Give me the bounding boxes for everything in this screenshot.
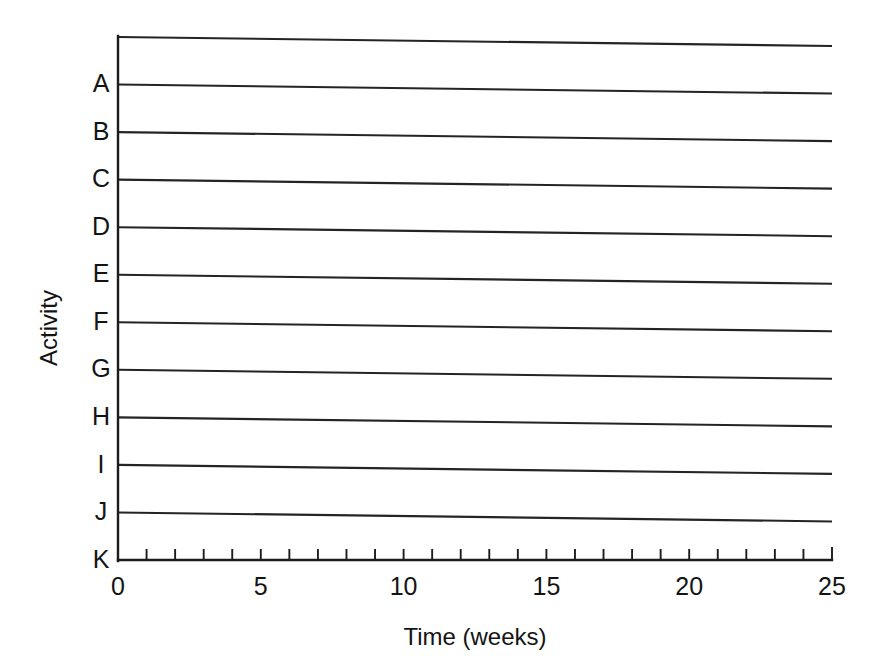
grid-line-G bbox=[118, 370, 832, 379]
category-label-J: J bbox=[95, 497, 108, 525]
x-tick-label-0: 0 bbox=[111, 572, 125, 600]
category-label-E: E bbox=[93, 259, 110, 287]
x-tick-label-10: 10 bbox=[390, 572, 418, 600]
category-label-D: D bbox=[92, 212, 110, 240]
grid-line-J bbox=[118, 512, 832, 521]
category-label-H: H bbox=[92, 402, 110, 430]
x-axis-title: Time (weeks) bbox=[403, 623, 546, 650]
x-axis-tick-marks bbox=[118, 547, 832, 560]
grid-line-H bbox=[118, 417, 832, 426]
category-label-A: A bbox=[93, 69, 110, 97]
grid-line-D bbox=[118, 227, 832, 236]
grid-line-F bbox=[118, 322, 832, 331]
x-tick-label-25: 25 bbox=[818, 572, 846, 600]
chart-canvas: 0510152025 ABCDEFGHIJK Time (weeks) Acti… bbox=[0, 0, 881, 664]
x-axis-tick-labels: 0510152025 bbox=[111, 572, 846, 600]
y-axis-title: Activity bbox=[35, 290, 62, 366]
category-label-B: B bbox=[93, 117, 110, 145]
category-label-K: K bbox=[93, 545, 110, 573]
category-label-F: F bbox=[93, 307, 108, 335]
grid-line-A bbox=[118, 85, 832, 94]
category-label-I: I bbox=[98, 450, 105, 478]
category-label-G: G bbox=[91, 354, 110, 382]
chart-top-border-line bbox=[118, 37, 832, 46]
activity-grid-lines bbox=[118, 37, 832, 521]
gantt-chart-figure: 0510152025 ABCDEFGHIJK Time (weeks) Acti… bbox=[0, 0, 881, 664]
x-tick-label-5: 5 bbox=[254, 572, 268, 600]
x-tick-label-15: 15 bbox=[532, 572, 560, 600]
grid-line-E bbox=[118, 275, 832, 284]
grid-line-C bbox=[118, 180, 832, 189]
grid-line-I bbox=[118, 465, 832, 474]
grid-line-B bbox=[118, 132, 832, 141]
category-label-C: C bbox=[92, 164, 110, 192]
activity-category-labels: ABCDEFGHIJK bbox=[91, 69, 110, 572]
x-tick-label-20: 20 bbox=[675, 572, 703, 600]
